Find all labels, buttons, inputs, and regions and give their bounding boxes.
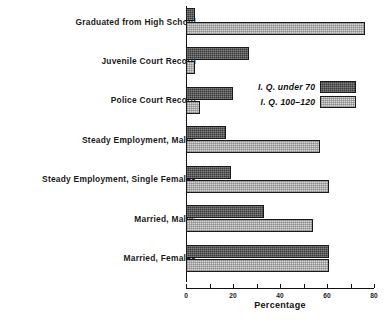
- category-label: Steady Employment, Single Females: [42, 174, 196, 184]
- bar-iq-under-70: [186, 245, 329, 258]
- bar-iq-under-70: [186, 47, 249, 60]
- bar-iq-100-120: [186, 61, 195, 74]
- category-label: Steady Employment, Males: [82, 135, 196, 145]
- x-tick-mark: [186, 284, 187, 288]
- x-tick-label: 80: [370, 292, 377, 299]
- x-tick-mark: [351, 284, 352, 288]
- bar-iq-under-70: [186, 205, 264, 218]
- x-tick-mark: [327, 284, 328, 288]
- bar-iq-100-120: [186, 22, 365, 35]
- legend-item: I. Q. under 70: [258, 80, 356, 93]
- bar-iq-100-120: [186, 180, 329, 193]
- x-tick-label: 60: [323, 292, 330, 299]
- x-tick-mark: [233, 284, 234, 288]
- x-axis-line: [186, 288, 374, 289]
- x-tick-mark: [304, 284, 305, 288]
- bar-iq-under-70: [186, 8, 195, 21]
- x-tick-label: 40: [276, 292, 283, 299]
- bar-iq-under-70: [186, 126, 226, 139]
- legend-label: I. Q. 100–120: [261, 97, 316, 107]
- category-label: Police Court Record: [111, 95, 196, 105]
- bar-iq-100-120: [186, 101, 200, 114]
- bar-iq-100-120: [186, 140, 320, 153]
- x-tick-mark: [280, 284, 281, 288]
- x-axis-title: Percentage: [186, 300, 374, 310]
- x-tick-label: 0: [184, 292, 188, 299]
- x-tick-mark: [374, 284, 375, 288]
- plot-area: [186, 6, 374, 282]
- legend-swatch-light: [320, 96, 356, 108]
- bar-iq-100-120: [186, 259, 329, 272]
- legend-item: I. Q. 100–120: [258, 95, 356, 108]
- category-label: Juvenile Court Record: [101, 56, 196, 66]
- bar-chart: Graduated from High SchoolJuvenile Court…: [0, 0, 391, 320]
- x-tick-label: 20: [229, 292, 236, 299]
- chart-legend: I. Q. under 70I. Q. 100–120: [258, 80, 356, 110]
- bar-iq-under-70: [186, 166, 231, 179]
- legend-swatch-dark: [320, 81, 356, 93]
- bar-iq-100-120: [186, 219, 313, 232]
- category-label: Graduated from High School: [76, 17, 197, 27]
- x-tick-mark: [210, 284, 211, 288]
- legend-label: I. Q. under 70: [258, 82, 315, 92]
- x-tick-mark: [257, 284, 258, 288]
- bar-iq-under-70: [186, 87, 233, 100]
